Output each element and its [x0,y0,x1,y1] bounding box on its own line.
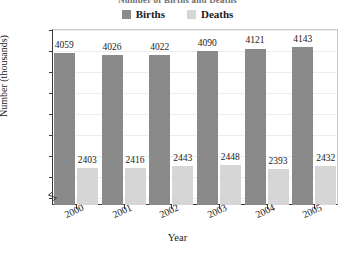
bar-value-label: 4090 [198,39,217,49]
bar-births-2001 [102,55,123,205]
bar-deaths-2003 [220,165,241,205]
x-tick-label: 2004 [254,203,276,221]
bar-chart-figure: Number of Births and Deaths Births Death… [0,0,355,253]
bar-value-label: 2403 [78,156,97,166]
bar-births-2002 [149,55,170,205]
y-axis-title: Number (thousands) [0,35,9,117]
x-tick-label: 2001 [111,203,133,221]
bar-value-label: 2393 [269,157,288,167]
bar-value-label: 4121 [246,36,265,46]
bar-births-2004 [245,49,266,206]
legend-item-births: Births [122,9,165,20]
x-axis-title: Year [0,232,355,243]
bar-value-label: 2432 [316,154,335,164]
chart-title: Number of Births and Deaths [0,0,355,5]
legend-label-births: Births [136,9,165,20]
axis-break-icon [47,186,58,204]
bar-value-label: 4022 [150,43,169,53]
bar-births-2003 [197,51,218,205]
bar-births-2005 [292,47,313,205]
chart-legend: Births Deaths [0,9,355,20]
bar-deaths-2004 [268,169,289,205]
legend-item-deaths: Deaths [187,9,233,20]
x-tick-label: 2003 [206,203,228,221]
bar-deaths-2002 [172,166,193,205]
bar-value-label: 2443 [173,154,192,164]
bar-value-label: 4026 [103,43,122,53]
bar-value-label: 2416 [126,156,145,166]
bar-births-2000 [54,53,75,205]
bar-value-label: 4143 [293,35,312,45]
births-swatch-icon [122,10,131,19]
deaths-swatch-icon [187,10,196,19]
x-tick-label: 2005 [301,203,323,221]
bar-deaths-2001 [125,168,146,205]
bar-value-label: 4059 [55,41,74,51]
bars-layer: 4059240320004026241620014022244320024090… [52,29,338,205]
bar-deaths-2005 [315,166,336,205]
bar-value-label: 2448 [221,153,240,163]
legend-label-deaths: Deaths [201,9,233,20]
x-tick-label: 2002 [158,203,180,221]
x-tick-label: 2000 [63,203,85,221]
bar-deaths-2000 [77,168,98,205]
